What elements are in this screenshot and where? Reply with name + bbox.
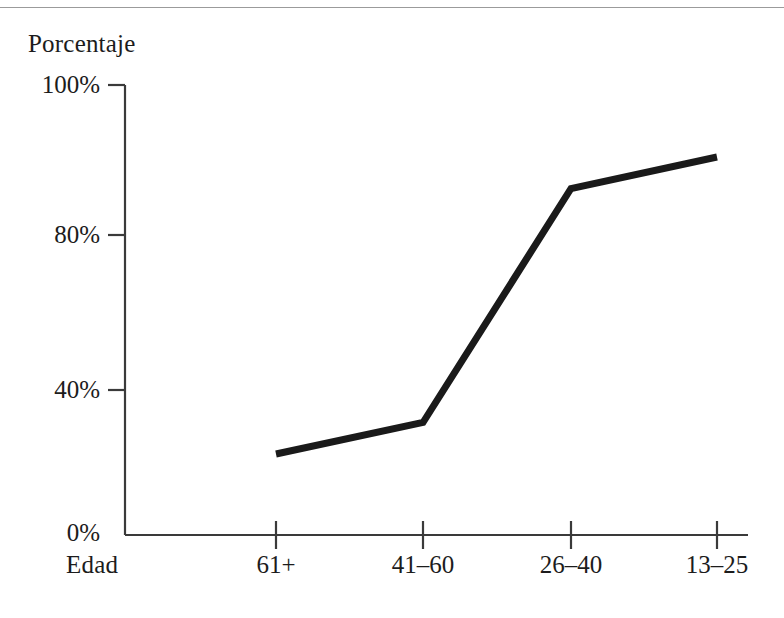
y-tick-label-40: 40% (18, 376, 100, 404)
x-tick-label-0: 61+ (256, 551, 295, 579)
y-tick-label-100: 100% (18, 71, 100, 99)
x-tick-label-2: 26–40 (540, 551, 603, 579)
x-axis-title: Edad (66, 551, 118, 579)
y-tick-label-0: 0% (18, 519, 100, 547)
figure-canvas: Porcentaje 100% 80% 40% 0% 61+ 41–60 26–… (0, 0, 784, 618)
x-tick-label-1: 41–60 (392, 551, 455, 579)
x-tick-label-3: 13–25 (686, 551, 749, 579)
y-axis-title: Porcentaje (28, 30, 136, 58)
y-tick-label-80: 80% (18, 221, 100, 249)
line-chart-plot (0, 0, 784, 618)
data-series-line (276, 157, 717, 454)
